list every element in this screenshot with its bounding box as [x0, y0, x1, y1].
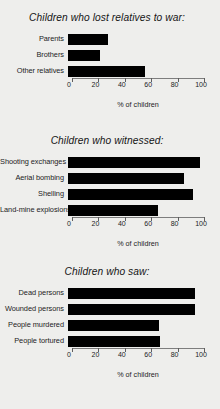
bar-track: [68, 288, 206, 299]
axis-tick-label: 60: [144, 81, 152, 88]
plot-area: Dead personsWounded personsPeople murder…: [0, 286, 220, 379]
axis-tick-label: 0: [67, 351, 71, 358]
category-label: Shooting exchanges: [0, 158, 68, 166]
axis-tick-label: 100: [195, 220, 207, 227]
bar-track: [68, 173, 206, 184]
plot-area: ParentsBrothersOther relatives 020406080…: [0, 32, 220, 109]
axis-tick: [72, 78, 73, 82]
bar-row: Land-mine explosions: [0, 203, 220, 217]
axis-tick-label: 80: [171, 351, 179, 358]
bar-track: [68, 157, 206, 168]
axis-tick-label: 0: [67, 81, 71, 88]
plot-area: Shooting exchangesAerial bombingShelling…: [0, 155, 220, 248]
bar-row: Shooting exchanges: [0, 155, 220, 169]
category-label: Parents: [0, 35, 68, 43]
x-axis: 020406080100: [72, 78, 210, 93]
bar: [68, 66, 145, 77]
chart-title: Children who saw:: [0, 266, 220, 277]
axis-tick-label: 80: [171, 81, 179, 88]
axis-tick-label: 20: [91, 220, 99, 227]
chart-title: Children who witnessed:: [0, 135, 220, 146]
bar: [68, 205, 158, 216]
axis-tick-label: 80: [171, 220, 179, 227]
chart-panel-lost-relatives: Children who lost relatives to war: Pare…: [0, 0, 220, 126]
axis-tick-label: 40: [118, 220, 126, 227]
bar-track: [68, 336, 206, 347]
bar-row: Parents: [0, 32, 220, 46]
bar-track: [68, 304, 206, 315]
bar-rows: ParentsBrothersOther relatives: [0, 32, 220, 78]
category-label: People tortured: [0, 337, 68, 345]
chart-panel-saw: Children who saw: Dead personsWounded pe…: [0, 256, 220, 409]
bar-row: Aerial bombing: [0, 171, 220, 185]
bar: [68, 189, 193, 200]
bar-row: Wounded persons: [0, 302, 220, 316]
bar-track: [68, 320, 206, 331]
axis-tick-label: 20: [91, 81, 99, 88]
axis-tick-label: 0: [67, 220, 71, 227]
axis-tick-label: 20: [91, 351, 99, 358]
axis-line: [72, 348, 204, 349]
category-label: Other relatives: [0, 67, 68, 75]
bar: [68, 320, 159, 331]
bar: [68, 157, 200, 168]
bar-track: [68, 189, 206, 200]
chart-title: Children who lost relatives to war:: [0, 12, 220, 23]
x-axis-title: % of children: [72, 370, 204, 379]
axis-tick-label: 100: [195, 81, 207, 88]
bar-track: [68, 50, 206, 61]
bar-row: Brothers: [0, 48, 220, 62]
figure-container: Children who lost relatives to war: Pare…: [0, 0, 220, 409]
axis-tick-label: 60: [144, 220, 152, 227]
axis-line: [72, 217, 204, 218]
axis-tick-label: 60: [144, 351, 152, 358]
category-label: Wounded persons: [0, 305, 68, 313]
category-label: Aerial bombing: [0, 174, 68, 182]
category-label: Brothers: [0, 51, 68, 59]
bar-row: Shelling: [0, 187, 220, 201]
x-axis: 020406080100: [72, 217, 210, 232]
axis-tick: [72, 217, 73, 221]
axis-tick-label: 40: [118, 81, 126, 88]
chart-panel-witnessed: Children who witnessed: Shooting exchang…: [0, 126, 220, 256]
category-label: Land-mine explosions: [0, 206, 68, 214]
bar: [68, 50, 100, 61]
bar-rows: Dead personsWounded personsPeople murder…: [0, 286, 220, 348]
bar-track: [68, 66, 206, 77]
bar-row: People tortured: [0, 334, 220, 348]
axis-line: [72, 78, 204, 79]
bar: [68, 336, 160, 347]
axis-tick: [72, 348, 73, 352]
bar-row: People murdered: [0, 318, 220, 332]
bar: [68, 173, 184, 184]
bar-track: [68, 205, 206, 216]
category-label: Shelling: [0, 190, 68, 198]
bar-row: Dead persons: [0, 286, 220, 300]
bar: [68, 304, 195, 315]
x-axis-title: % of children: [72, 100, 204, 109]
category-label: People murdered: [0, 321, 68, 329]
axis-tick-label: 40: [118, 351, 126, 358]
x-axis-title: % of children: [72, 239, 204, 248]
bar: [68, 34, 108, 45]
bar-track: [68, 34, 206, 45]
bar-row: Other relatives: [0, 64, 220, 78]
category-label: Dead persons: [0, 289, 68, 297]
axis-tick-label: 100: [195, 351, 207, 358]
bar-rows: Shooting exchangesAerial bombingShelling…: [0, 155, 220, 217]
x-axis: 020406080100: [72, 348, 210, 363]
bar: [68, 288, 195, 299]
